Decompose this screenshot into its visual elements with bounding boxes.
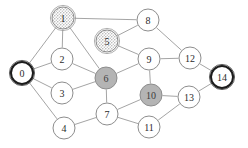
graph-node-10[interactable]: 10 <box>140 84 162 106</box>
graph-canvas: 01234567891011121314 <box>0 0 248 148</box>
graph-edge-11-13 <box>158 104 180 120</box>
graph-edge-4-7 <box>75 118 96 125</box>
graph-node-7[interactable]: 7 <box>96 103 118 125</box>
graph-edge-10-13 <box>162 96 177 97</box>
edge-layer <box>29 18 212 124</box>
graph-figure: 01234567891011121314 <box>0 0 248 148</box>
graph-edge-5-8 <box>117 25 138 36</box>
node-shape-12[interactable] <box>179 47 201 69</box>
graph-edge-0-2 <box>33 63 51 69</box>
graph-node-12[interactable]: 12 <box>179 47 201 69</box>
graph-edge-7-11 <box>118 117 138 123</box>
node-shape-4[interactable] <box>53 117 75 139</box>
node-shape-1[interactable] <box>52 7 74 29</box>
graph-node-1[interactable]: 1 <box>50 5 75 30</box>
graph-node-11[interactable]: 11 <box>138 116 160 138</box>
node-shape-13[interactable] <box>178 86 200 108</box>
graph-edge-6-9 <box>117 64 139 74</box>
graph-edge-9-10 <box>150 70 151 83</box>
graph-edge-1-6 <box>70 27 100 68</box>
graph-node-13[interactable]: 13 <box>178 86 200 108</box>
graph-node-6[interactable]: 6 <box>95 67 117 89</box>
graph-edge-7-10 <box>118 100 141 110</box>
node-shape-10[interactable] <box>140 84 162 106</box>
graph-node-3[interactable]: 3 <box>51 82 73 104</box>
node-shape-14[interactable] <box>211 66 233 88</box>
node-shape-8[interactable] <box>137 9 159 31</box>
graph-node-2[interactable]: 2 <box>51 48 73 70</box>
graph-edge-1-8 <box>75 18 137 19</box>
graph-edge-8-12 <box>157 28 182 51</box>
graph-edge-2-6 <box>73 64 96 74</box>
node-shape-5[interactable] <box>96 30 118 52</box>
graph-edge-12-14 <box>200 64 212 71</box>
graph-node-4[interactable]: 4 <box>53 117 75 139</box>
graph-node-9[interactable]: 9 <box>138 48 160 70</box>
node-shape-6[interactable] <box>95 67 117 89</box>
graph-edge-13-14 <box>199 83 212 91</box>
node-shape-7[interactable] <box>96 103 118 125</box>
graph-node-5[interactable]: 5 <box>94 28 119 53</box>
graph-edge-3-6 <box>73 82 95 90</box>
node-shape-3[interactable] <box>51 82 73 104</box>
node-shape-11[interactable] <box>138 116 160 138</box>
node-shape-9[interactable] <box>138 48 160 70</box>
graph-node-0[interactable]: 0 <box>9 60 34 85</box>
graph-node-14[interactable]: 14 <box>209 64 234 89</box>
graph-node-8[interactable]: 8 <box>137 9 159 31</box>
node-shape-0[interactable] <box>11 62 33 84</box>
graph-edge-0-3 <box>32 78 51 88</box>
node-shape-2[interactable] <box>51 48 73 70</box>
graph-edge-5-9 <box>118 46 139 55</box>
